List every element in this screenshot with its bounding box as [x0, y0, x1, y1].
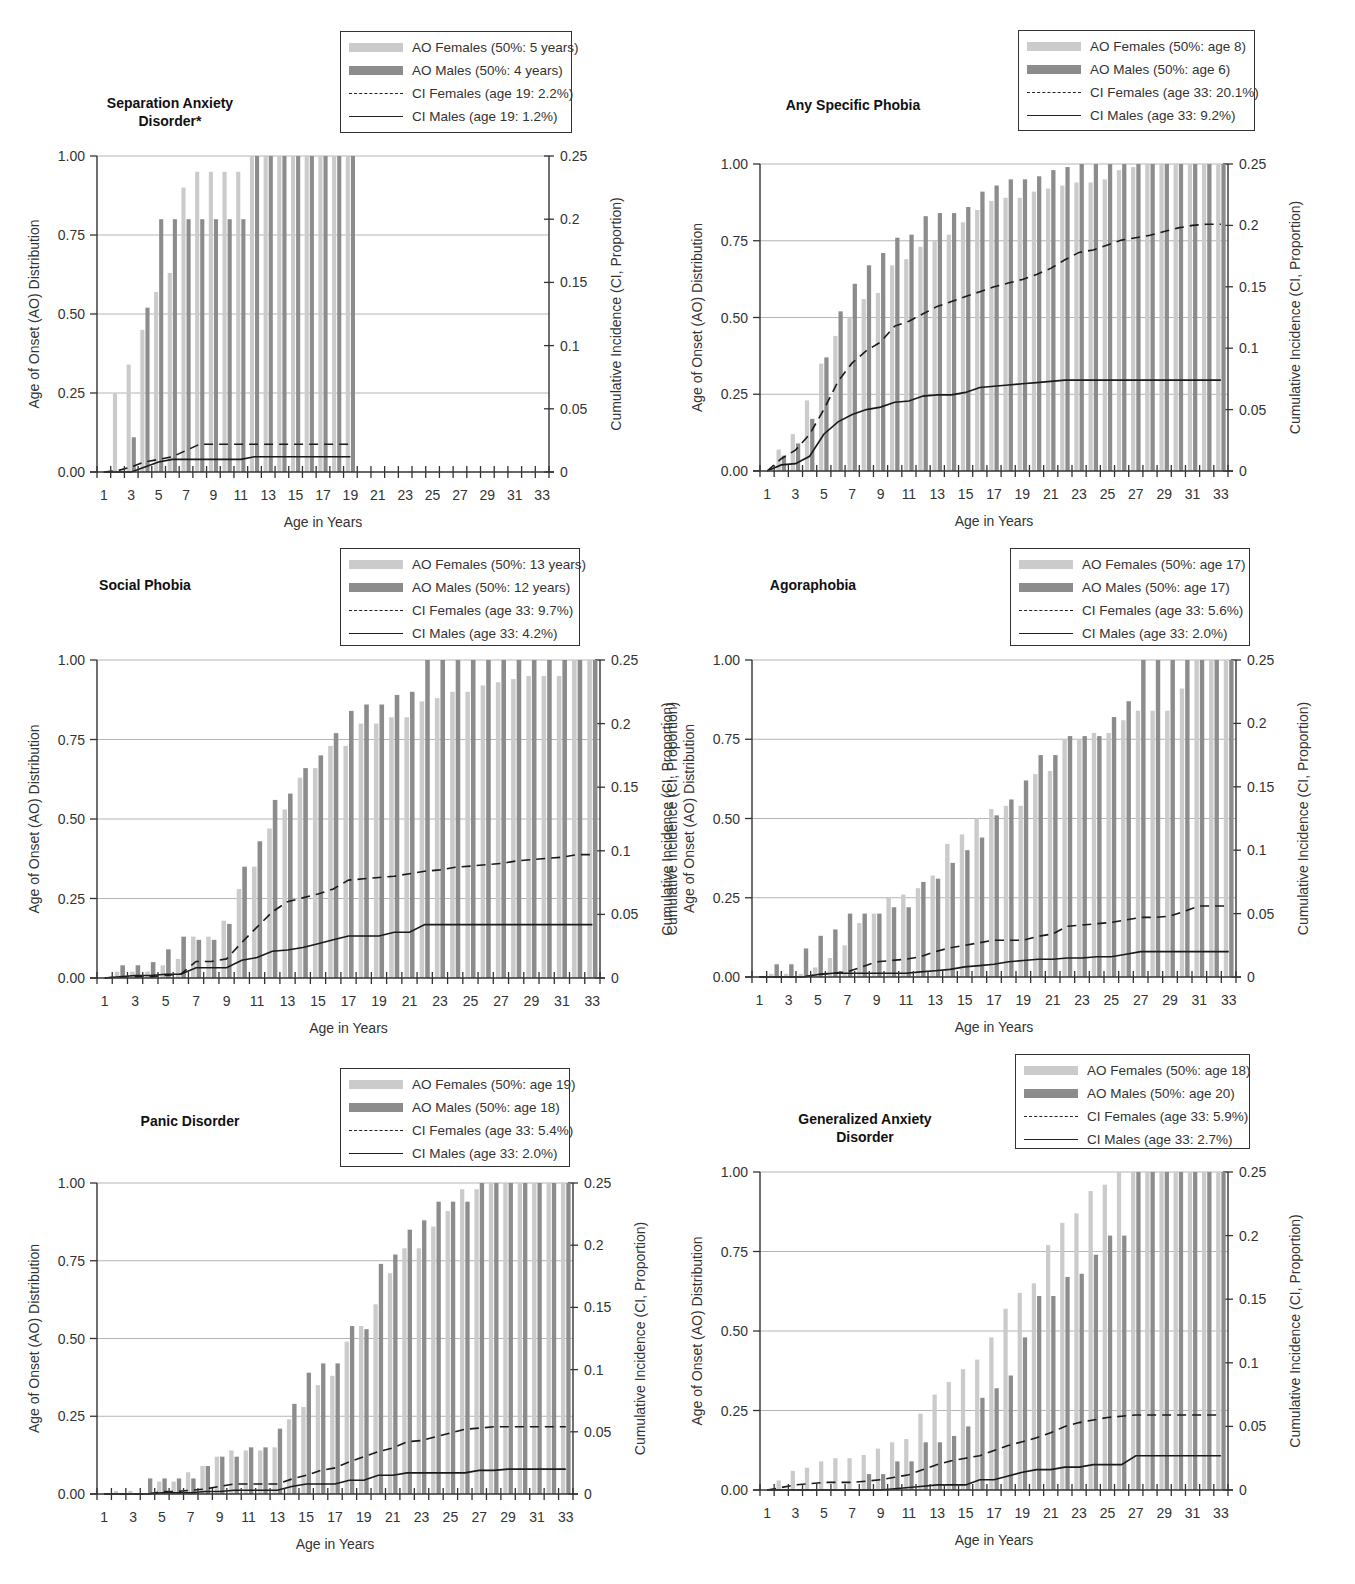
bar-ao-males [425, 660, 430, 978]
bar-ao-females [989, 201, 993, 471]
y-tick-label: 0.00 [58, 970, 85, 986]
bar-ao-females [373, 1304, 377, 1494]
bar-ao-females [975, 210, 979, 471]
bar-ao-males [863, 914, 867, 977]
x-tick-label: 27 [493, 993, 509, 1009]
bar-ao-females [989, 809, 993, 977]
x-tick-label: 21 [402, 993, 418, 1009]
bar-ao-females [291, 156, 295, 472]
y-right-tick-label: 0.1 [1247, 842, 1267, 858]
x-tick-label: 3 [792, 1505, 800, 1521]
x-tick-label: 11 [234, 487, 249, 503]
y-right-tick-label: 0.1 [611, 843, 631, 859]
bar-ao-females [1077, 739, 1081, 977]
bar-ao-females [191, 937, 196, 978]
x-tick-label: 15 [958, 1505, 974, 1521]
bar-ao-males [1023, 179, 1027, 471]
bar-ao-females [876, 1449, 880, 1490]
y-tick-label: 0.50 [713, 811, 740, 827]
bar-ao-males [1094, 164, 1098, 471]
bar-ao-females [805, 1468, 809, 1490]
bar-ao-males [307, 1373, 311, 1494]
x-tick-label: 15 [298, 1509, 314, 1525]
bar-ao-males [966, 207, 970, 471]
bar-ao-males [187, 219, 191, 472]
x-tick-label: 1 [763, 1505, 771, 1521]
bar-ao-females [1060, 185, 1064, 471]
x-tick-label: 11 [899, 992, 914, 1008]
y-tick-label: 1.00 [58, 148, 85, 164]
bar-ao-males [1051, 1296, 1055, 1490]
x-tick-label: 9 [210, 487, 218, 503]
bar-ao-females [1131, 167, 1135, 471]
bar-ao-males [349, 711, 354, 978]
y-right-tick-label: 0.05 [611, 906, 638, 922]
bar-ao-females [236, 172, 240, 472]
bar-ao-males [532, 660, 537, 978]
bar-ao-females [404, 717, 409, 978]
bar-ao-males [269, 156, 273, 472]
plot-agoraphobia: 0.000.250.500.751.0000.050.10.150.20.251… [664, 652, 1311, 1035]
bar-ao-males [296, 156, 300, 472]
bar-ao-males [410, 692, 415, 978]
bar-ao-males [980, 838, 984, 977]
bar-ao-females [264, 156, 268, 472]
bar-ao-males [1200, 660, 1204, 977]
x-tick-label: 15 [288, 487, 304, 503]
bar-ao-females [547, 1183, 551, 1494]
bar-ao-females [857, 923, 861, 977]
y-tick-label: 1.00 [721, 156, 748, 172]
bar-ao-males [200, 219, 204, 472]
bar-ao-males [1165, 1172, 1169, 1490]
bar-ao-females [1046, 189, 1050, 471]
y-tick-label: 1.00 [58, 1175, 85, 1191]
bar-ao-males [206, 1466, 210, 1494]
y-right-tick-label: 0.25 [1247, 652, 1274, 668]
x-tick-label: 17 [341, 993, 357, 1009]
bar-ao-males [980, 1398, 984, 1490]
bar-ao-males [408, 1230, 412, 1494]
x-tick-label: 9 [216, 1509, 224, 1525]
bar-ao-females [1188, 1172, 1192, 1490]
x-tick-label: 23 [1074, 992, 1090, 1008]
bar-ao-males [562, 660, 567, 978]
bar-ao-males [1108, 1236, 1112, 1490]
bar-ao-females [833, 336, 837, 471]
y-axis-label: Age of Onset (AO) Distribution [689, 1236, 705, 1425]
bar-ao-females [1089, 182, 1093, 471]
x-tick-label: 11 [250, 993, 265, 1009]
y-right-tick-label: 0.2 [560, 211, 580, 227]
bar-ao-males [364, 705, 369, 978]
y-right-tick-label: 0.15 [584, 1299, 611, 1315]
bar-ao-females [1216, 1172, 1220, 1490]
y-right-tick-label: 0.25 [611, 652, 638, 668]
bar-ao-males [1127, 701, 1131, 977]
x-tick-label: 3 [785, 992, 793, 1008]
bar-ao-males [867, 265, 871, 471]
bar-ao-males [501, 660, 506, 978]
bar-ao-females [258, 1450, 262, 1494]
y-right-tick-label: 0.2 [1239, 217, 1259, 233]
x-tick-label: 15 [958, 486, 974, 502]
x-tick-label: 29 [1156, 486, 1172, 502]
bar-ao-females [1131, 1172, 1135, 1490]
bar-ao-males [220, 1457, 224, 1494]
y-tick-label: 0.50 [721, 1323, 748, 1339]
bar-ao-females [847, 1458, 851, 1490]
x-tick-label: 15 [310, 993, 326, 1009]
x-tick-label: 33 [585, 993, 601, 1009]
bar-ao-males [909, 235, 913, 471]
x-tick-label: 27 [1128, 1505, 1144, 1521]
x-axis-label: Age in Years [284, 514, 363, 530]
bar-ao-males [235, 1457, 239, 1494]
y-right-tick-label: 0.25 [560, 148, 587, 164]
bar-ao-males [321, 1363, 325, 1494]
bar-ao-males [480, 1183, 484, 1494]
bar-ao-males [395, 695, 400, 978]
bar-ao-females [305, 156, 309, 472]
bar-ao-males [881, 253, 885, 471]
bar-ao-males [242, 867, 247, 978]
x-tick-label: 1 [755, 992, 763, 1008]
bar-ao-males [1083, 736, 1087, 977]
bar-ao-females [1018, 806, 1022, 977]
